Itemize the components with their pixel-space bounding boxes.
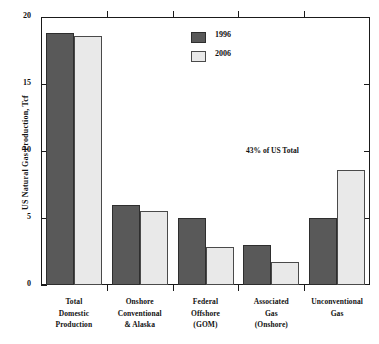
x-tick-mark-top xyxy=(107,11,108,17)
y-tick-mark xyxy=(41,17,47,18)
legend-label-1996: 1996 xyxy=(215,30,231,39)
x-axis-label-line: Unconventional xyxy=(304,296,370,308)
x-axis-label: TotalDomesticProduction xyxy=(41,296,107,331)
x-axis-label-line: Total xyxy=(41,296,107,308)
bar xyxy=(178,218,206,285)
x-tick-mark xyxy=(173,285,174,291)
x-axis-label-line: (Onshore) xyxy=(238,319,304,331)
bar xyxy=(271,262,299,285)
bar xyxy=(112,205,140,285)
y-tick-mark-right xyxy=(364,151,370,152)
y-tick-mark-right xyxy=(364,84,370,85)
x-axis-label-line: Gas xyxy=(304,308,370,320)
legend-swatch-1996 xyxy=(191,32,206,43)
y-tick-label: 15 xyxy=(7,78,31,87)
y-tick-label: 20 xyxy=(7,11,31,20)
chart-figure: US Natural Gas Production, Tcf 05101520 … xyxy=(0,0,379,344)
bar xyxy=(140,211,168,285)
x-axis-label-line: Production xyxy=(41,319,107,331)
x-axis-label: FederalOffshore(GOM) xyxy=(173,296,239,331)
y-tick-label: 5 xyxy=(7,212,31,221)
x-axis-label-line: Domestic xyxy=(41,308,107,320)
bar xyxy=(337,170,365,285)
x-axis-label-line: Associated xyxy=(238,296,304,308)
y-tick-label: 10 xyxy=(7,145,31,154)
x-tick-mark-top xyxy=(173,11,174,17)
legend-label-2006: 2006 xyxy=(215,49,231,58)
bar xyxy=(309,218,337,285)
x-axis-label-line: Conventional xyxy=(107,308,173,320)
x-axis-label-line: & Alaska xyxy=(107,319,173,331)
x-tick-mark-top xyxy=(304,11,305,17)
x-axis-label: OnshoreConventional& Alaska xyxy=(107,296,173,331)
bar xyxy=(206,247,234,285)
x-tick-mark xyxy=(304,285,305,291)
legend-swatch-2006 xyxy=(191,51,206,62)
annotation-43-percent: 43% of US Total xyxy=(246,146,299,155)
bar xyxy=(243,245,271,285)
y-tick-mark xyxy=(41,285,47,286)
x-axis-label: AssociatedGas(Onshore) xyxy=(238,296,304,331)
x-tick-mark xyxy=(238,285,239,291)
x-axis-label-line: Offshore xyxy=(173,308,239,320)
x-axis-label-line: (GOM) xyxy=(173,319,239,331)
y-tick-label: 0 xyxy=(7,279,31,288)
x-axis-label-line: Onshore xyxy=(107,296,173,308)
x-axis-label-line: Gas xyxy=(238,308,304,320)
bar xyxy=(74,36,102,285)
x-tick-mark xyxy=(107,285,108,291)
x-axis-label-line: Federal xyxy=(173,296,239,308)
bar xyxy=(46,33,74,285)
x-tick-mark-top xyxy=(238,11,239,17)
x-axis-label: UnconventionalGas xyxy=(304,296,370,319)
